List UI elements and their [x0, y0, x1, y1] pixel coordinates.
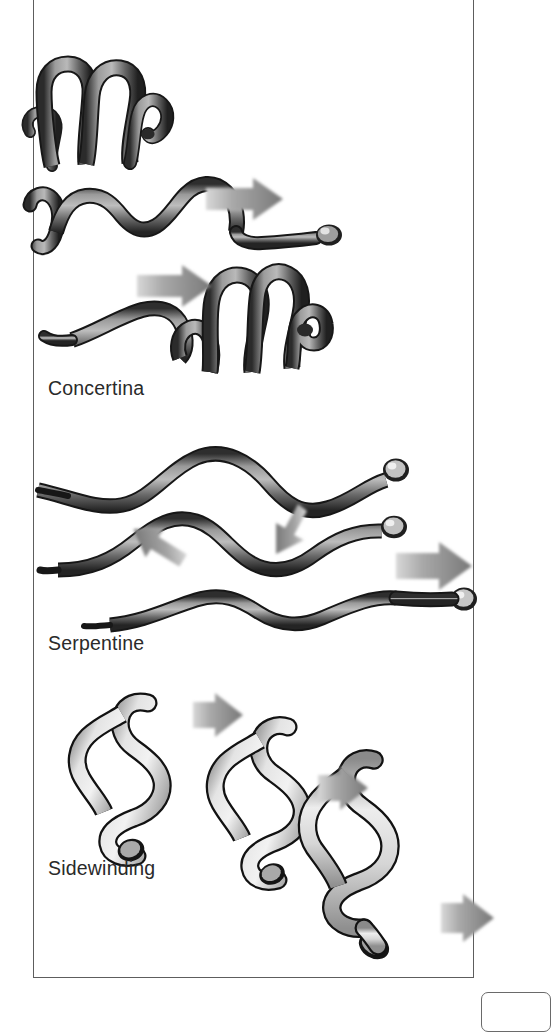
concertina-arrow-2 — [137, 265, 212, 307]
sidewinding-snake-2 — [215, 726, 302, 888]
serpentine-snake-2 — [40, 516, 407, 571]
sidewinding-snake-1 — [77, 702, 162, 865]
concertina-snake-2 — [30, 184, 342, 248]
serpentine-snake-3 — [84, 588, 477, 627]
label-concertina: Concertina — [48, 377, 144, 400]
serpentine-group — [38, 454, 477, 627]
concertina-snake-1 — [28, 64, 168, 166]
concertina-group — [28, 64, 342, 372]
page-corner-box — [481, 992, 551, 1032]
sidewinding-arrow-1 — [193, 693, 243, 737]
label-serpentine: Serpentine — [48, 632, 144, 655]
serpentine-arrow-motion — [396, 542, 472, 590]
label-sidewinding: Sidewinding — [48, 857, 155, 880]
sidewinding-group — [77, 693, 494, 964]
serpentine-snake-1 — [38, 454, 409, 511]
sidewinding-arrow-3 — [441, 894, 494, 942]
